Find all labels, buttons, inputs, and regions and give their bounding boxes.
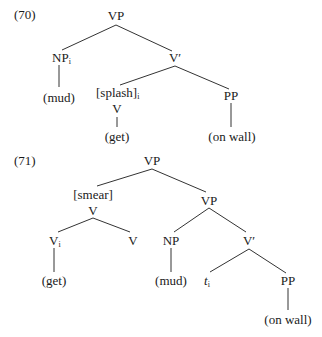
edge-v-vi	[58, 218, 93, 232]
syntax-tree-diagram: (70) VP NPi (mud) V′ [splash]i V (get) P…	[0, 0, 322, 337]
leaf-mud: (mud)	[43, 90, 75, 105]
node-splash-i: [splash]i	[96, 85, 140, 101]
leaf-on-wall: (on wall)	[208, 129, 255, 144]
leaf-get: (get)	[105, 129, 130, 144]
node-vp-root: VP	[144, 153, 161, 168]
node-v-bar: V′	[243, 233, 255, 248]
node-smear: [smear]	[73, 187, 113, 202]
example-71: (71) VP [smear] V Vi (get) V VP NP (mud)…	[14, 153, 312, 327]
example-number-70: (70)	[14, 7, 36, 22]
node-splash-label: [splash]	[96, 85, 137, 100]
node-v-right: V	[128, 233, 138, 248]
leaf-mud: (mud)	[155, 273, 187, 288]
edge-vp-smear	[97, 169, 152, 186]
node-pp: PP	[281, 273, 295, 288]
edge-vbar-splash	[120, 66, 175, 85]
node-v-complex: V	[88, 203, 98, 218]
edge-vp-vbar	[116, 25, 172, 51]
node-np-i: NPi	[52, 50, 72, 66]
node-v-bar: V′	[169, 50, 181, 65]
edge-vbar-trace	[210, 249, 249, 272]
node-vp-inner: VP	[201, 193, 218, 208]
edge-v-vright	[93, 218, 130, 232]
node-vp: VP	[108, 8, 125, 23]
edge-vp-vpinner	[152, 169, 206, 192]
index-subscript: i	[69, 57, 72, 66]
edge-vpinner-vbar	[209, 208, 246, 232]
node-np-label: NP	[52, 50, 69, 65]
index-subscript: i	[208, 280, 211, 289]
node-np: NP	[163, 233, 180, 248]
edge-vbar-pp	[249, 249, 286, 273]
edge-vp-np	[62, 25, 116, 50]
leaf-on-wall: (on wall)	[264, 312, 311, 327]
node-pp: PP	[224, 88, 238, 103]
example-number-71: (71)	[14, 153, 36, 168]
leaf-get: (get)	[42, 273, 67, 288]
index-subscript: i	[58, 240, 61, 249]
node-v-i: Vi	[49, 233, 61, 249]
node-trace-t-i: ti	[204, 273, 211, 289]
edge-vpinner-np	[174, 208, 209, 232]
node-v: V	[112, 101, 122, 116]
example-70: (70) VP NPi (mud) V′ [splash]i V (get) P…	[14, 7, 256, 144]
edge-vbar-pp	[175, 66, 229, 89]
index-subscript: i	[137, 92, 140, 101]
